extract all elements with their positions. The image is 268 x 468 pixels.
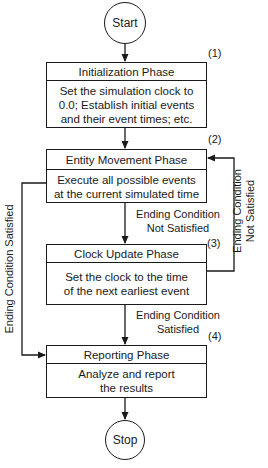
initialization-phase-title: Initialization Phase: [47, 63, 206, 81]
edge-label-left-satisfied: Ending Condition Satisfied: [3, 199, 17, 339]
start-label: Start: [112, 16, 137, 30]
clock-update-phase-title: Clock Update Phase: [47, 245, 206, 263]
stop-node: Stop: [105, 420, 145, 460]
edge-label-loop-not-satisfied: Ending Condition Not Satisfied: [231, 166, 259, 256]
entity-movement-phase-box: Entity Movement Phase Execute all possib…: [46, 149, 207, 203]
clock-update-phase-description: Set the clock to the time of the next ea…: [47, 263, 206, 298]
phase-2-number: (2): [208, 133, 221, 145]
entity-movement-phase-title: Entity Movement Phase: [47, 150, 206, 170]
entity-movement-phase-description: Execute all possible events at the curre…: [47, 170, 206, 201]
start-node: Start: [104, 2, 146, 44]
edge-label-not-satisfied-down: Ending Condition Not Satisfied: [128, 208, 228, 235]
stop-label: Stop: [113, 433, 138, 447]
phase-4-number: (4): [208, 330, 221, 342]
reporting-phase-description: Analyze and report the results: [47, 364, 206, 395]
initialization-phase-box: Initialization Phase Set the simulation …: [46, 62, 207, 128]
reporting-phase-title: Reporting Phase: [47, 346, 206, 364]
phase-1-number: (1): [208, 47, 221, 59]
reporting-phase-box: Reporting Phase Analyze and report the r…: [46, 345, 207, 398]
clock-update-phase-box: Clock Update Phase Set the clock to the …: [46, 244, 207, 305]
initialization-phase-description: Set the simulation clock to 0.0; Establi…: [47, 81, 206, 126]
phase-3-number: (3): [207, 237, 220, 249]
